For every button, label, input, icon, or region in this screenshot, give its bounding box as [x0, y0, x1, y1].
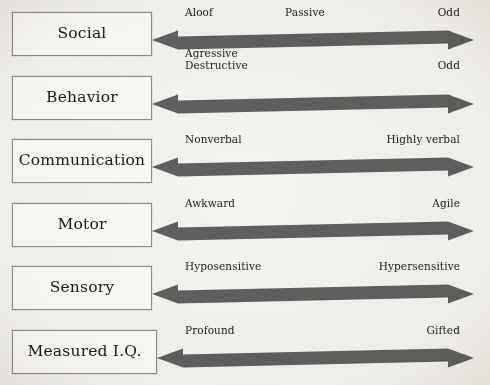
- arrow-shape: [152, 95, 474, 114]
- category-label: Sensory: [50, 280, 115, 296]
- arrow-shape: [157, 349, 474, 368]
- left-pole-label-behavior: Agressive Destructive: [185, 48, 248, 71]
- category-box-sensory: Sensory: [12, 266, 152, 310]
- arrow-shape: [152, 222, 474, 241]
- spectrum-arrow-sensory: [152, 281, 474, 307]
- right-pole-label-communication: Highly verbal: [340, 134, 460, 146]
- arrow-shape: [152, 158, 474, 177]
- right-pole-label-social: Odd: [340, 7, 460, 19]
- spectrum-arrow-motor: [152, 218, 474, 244]
- category-box-motor: Motor: [12, 203, 152, 247]
- category-label: Social: [58, 26, 107, 42]
- left-pole-label-social: Aloof: [185, 7, 213, 19]
- left-pole-label-measured-iq: Profound: [185, 325, 235, 337]
- spectrum-diagram: SocialAloofPassiveOddBehaviorAgressive D…: [0, 0, 490, 385]
- left-pole-label-sensory: Hyposensitive: [185, 261, 261, 273]
- right-pole-label-measured-iq: Gifted: [340, 325, 460, 337]
- category-label: Behavior: [46, 90, 118, 106]
- spectrum-arrow-communication: [152, 154, 474, 180]
- category-box-measured-iq: Measured I.Q.: [12, 330, 157, 374]
- right-pole-label-sensory: Hypersensitive: [340, 261, 460, 273]
- category-box-behavior: Behavior: [12, 76, 152, 120]
- category-label: Motor: [57, 217, 106, 233]
- left-pole-label-communication: Nonverbal: [185, 134, 242, 146]
- right-pole-label-motor: Agile: [340, 198, 460, 210]
- spectrum-arrow-behavior: [152, 91, 474, 117]
- category-label: Communication: [19, 153, 146, 169]
- arrow-shape: [152, 285, 474, 304]
- category-label: Measured I.Q.: [27, 344, 141, 360]
- middle-pole-label-social: Passive: [265, 7, 345, 19]
- category-box-communication: Communication: [12, 139, 152, 183]
- category-box-social: Social: [12, 12, 152, 56]
- right-pole-label-behavior: Odd: [340, 60, 460, 72]
- spectrum-arrow-measured-iq: [157, 345, 474, 371]
- left-pole-label-motor: Awkward: [185, 198, 235, 210]
